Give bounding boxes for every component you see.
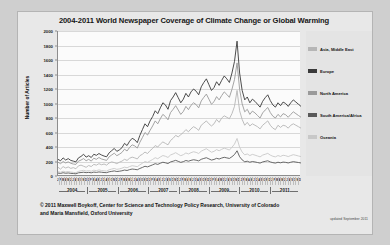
series-line — [58, 138, 301, 172]
legend-item[interactable]: North America — [308, 89, 348, 97]
y-tick-label: 400 — [46, 145, 53, 150]
y-tick-label: 2000 — [43, 29, 53, 34]
y-tick-label: 1600 — [43, 58, 53, 63]
legend-swatch — [308, 113, 317, 117]
x-year-label: 2005 — [87, 186, 117, 195]
y-axis-title: Number of Articles — [25, 68, 30, 128]
legend-item[interactable]: South America/Africa — [308, 111, 361, 119]
x-year-label: 2010 — [239, 186, 269, 195]
x-year-label: 2009 — [209, 186, 239, 195]
y-tick-label: 1000 — [43, 101, 53, 106]
legend-swatch — [308, 135, 317, 139]
x-month-tick: D — [299, 177, 301, 185]
x-year-label: 2011 — [270, 186, 300, 195]
series-line — [58, 41, 301, 162]
y-tick-label: 200 — [46, 159, 53, 164]
y-tick-label: 1800 — [43, 43, 53, 48]
legend-swatch — [308, 69, 317, 73]
x-year-label: 2008 — [179, 186, 209, 195]
legend-swatch — [308, 47, 317, 51]
series-line — [58, 63, 301, 164]
legend-item[interactable]: Oceania — [308, 133, 336, 141]
y-tick-label: 1200 — [43, 87, 53, 92]
x-axis-year-labels: 20042005200620072008200920102011 — [57, 186, 300, 195]
legend-label: North America — [320, 91, 348, 96]
credit-line: © 2011 Maxwell Boykoff, Center for Scien… — [40, 202, 350, 217]
chart-title: 2004-2011 World Newspaper Coverage of Cl… — [44, 16, 344, 26]
footer: © 2011 Maxwell Boykoff, Center for Scien… — [40, 202, 350, 217]
series-lines — [58, 31, 301, 176]
x-axis-month-ticks: JFMAMJJASONDJFMAMJJASONDJFMAMJJASONDJFMA… — [57, 177, 300, 185]
y-tick-label: 1400 — [43, 72, 53, 77]
y-axis: Number of Articles 020040060080010001200… — [18, 31, 57, 177]
x-year-text: 2008 — [189, 188, 199, 193]
x-year-label: 2007 — [148, 186, 178, 195]
x-year-label: 2006 — [118, 186, 148, 195]
credit-line-2: and Maria Mansfield, Oxford University — [40, 210, 350, 218]
series-line — [58, 90, 301, 169]
legend-item[interactable]: Europe — [308, 67, 334, 75]
x-year-text: 2007 — [158, 188, 168, 193]
updated-note: updated September 2011 — [330, 217, 368, 221]
x-year-text: 2004 — [67, 188, 77, 193]
legend-label: South America/Africa — [320, 113, 361, 118]
legend-item[interactable]: Asia, Middle East — [308, 45, 354, 53]
legend-swatch — [308, 91, 317, 95]
y-tick-label: 600 — [46, 130, 53, 135]
x-year-text: 2010 — [249, 188, 259, 193]
chart-figure: 2004-2011 World Newspaper Coverage of Cl… — [17, 11, 373, 235]
x-year-text: 2011 — [280, 188, 290, 193]
x-year-text: 2006 — [128, 188, 138, 193]
y-tick-label: 800 — [46, 116, 53, 121]
y-tick-label: 0 — [51, 174, 53, 179]
x-year-label: 2004 — [57, 186, 87, 195]
plot-area — [57, 31, 300, 176]
x-year-text: 2005 — [97, 188, 107, 193]
legend-label: Europe — [320, 69, 334, 74]
credit-line-1: © 2011 Maxwell Boykoff, Center for Scien… — [40, 202, 350, 210]
legend-label: Asia, Middle East — [320, 47, 354, 52]
x-year-text: 2009 — [219, 188, 229, 193]
legend-label: Oceania — [320, 135, 336, 140]
chart-legend: Asia, Middle EastEuropeNorth AmericaSout… — [306, 31, 372, 176]
